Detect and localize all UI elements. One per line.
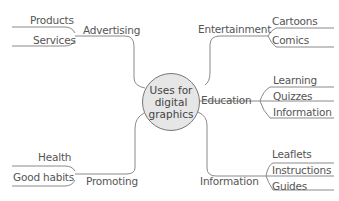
leaf-health: Health [38, 151, 71, 163]
branch-information: Information [200, 175, 259, 187]
leaf-instructions: Instructions [272, 164, 331, 176]
leaf-cartoons: Cartoons [272, 15, 318, 27]
leaf-services: Services [33, 34, 76, 46]
leaf-quizzes: Quizzes [273, 90, 312, 102]
branch-entertainment: Entertainment [198, 23, 271, 35]
leaf-guides: Guides [272, 180, 307, 192]
center-line-1: Uses for [149, 84, 194, 96]
central-topic: Uses for digital graphics [142, 73, 200, 131]
leaf-good-habits: Good habits [13, 171, 74, 183]
center-line-2: digital [149, 96, 194, 108]
leaf-learning: Learning [273, 74, 317, 86]
center-line-3: graphics [149, 108, 194, 120]
leaf-leaflets: Leaflets [272, 148, 312, 160]
branch-education: Education [201, 94, 251, 106]
branch-promoting: Promoting [86, 175, 138, 187]
leaf-products: Products [30, 14, 74, 26]
leaf-information-education: Information [273, 106, 332, 118]
branch-advertising: Advertising [83, 24, 140, 36]
leaf-comics: Comics [272, 34, 309, 46]
